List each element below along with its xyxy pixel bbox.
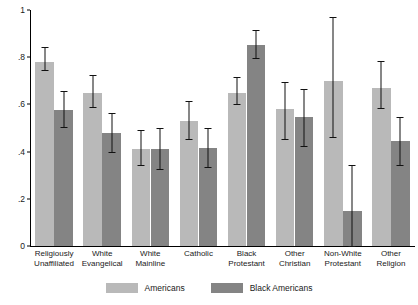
bar [180,121,199,246]
bar [228,93,247,246]
legend-swatch-icon [211,283,243,293]
bar [35,62,54,246]
error-bar-cap [253,58,260,59]
x-axis-line [30,246,415,247]
bar [247,45,266,246]
error-bar [256,30,257,58]
category-label-line: Mainline [118,259,182,269]
error-bar [400,117,401,164]
error-bar-cap [378,61,385,62]
error-bar-cap [60,127,67,128]
error-bar-cap [204,128,211,129]
error-bar-cap [301,146,308,147]
error-bar [159,128,160,169]
category-label-line: Other [359,249,418,259]
category-axis-labels: ReligiouslyUnaffiliatedWhiteEvangelicalW… [30,249,415,277]
bar [54,110,73,246]
error-bar [140,130,141,164]
plot-area: 1.8.6.4.20 [30,10,415,246]
bar [372,88,391,246]
error-bar-cap [204,167,211,168]
error-bar-cap [330,17,337,18]
error-bar-cap [282,139,289,140]
y-axis-tick-mark [27,10,30,11]
error-bar-cap [156,128,163,129]
error-bar-cap [108,113,115,114]
error-bar-cap [349,246,356,247]
legend-label: Americans [145,284,185,293]
bar-chart: 1.8.6.4.20 ReligiouslyUnaffiliatedWhiteE… [0,0,418,305]
error-bar [285,82,286,139]
error-bar [207,128,208,167]
error-bar [237,77,238,104]
error-bar-cap [108,152,115,153]
y-axis-tick-mark [27,104,30,105]
error-bar [92,75,93,107]
error-bar [111,113,112,152]
error-bar-cap [282,82,289,83]
error-bar-cap [137,130,144,131]
error-bar-cap [185,139,192,140]
error-bar-cap [234,104,241,105]
category-label: OtherReligion [359,249,418,268]
error-bar-cap [397,165,404,166]
error-bar-cap [41,70,48,71]
error-bar-cap [253,30,260,31]
y-axis-tick-mark [27,198,30,199]
error-bar-cap [89,107,96,108]
error-bar [188,101,189,139]
error-bar-cap [89,75,96,76]
error-bar-cap [156,169,163,170]
error-bar [63,91,64,126]
legend-entry[interactable]: Americans [106,283,185,293]
legend-entry[interactable]: Black Americans [211,283,313,293]
error-bar [44,47,45,71]
error-bar [304,89,305,146]
legend-swatch-icon [106,283,138,293]
error-bar-cap [330,137,337,138]
error-bar-cap [185,101,192,102]
y-axis-tick-mark [27,57,30,58]
error-bar-cap [234,77,241,78]
error-bar-cap [378,108,385,109]
error-bar-cap [301,89,308,90]
error-bar [333,17,334,137]
y-axis-tick-mark [27,151,30,152]
error-bar [352,165,353,246]
error-bar-cap [397,117,404,118]
legend-label: Black Americans [250,284,313,293]
y-axis-tick-mark [27,246,30,247]
category-label-line: Religion [359,259,418,269]
error-bar-cap [41,47,48,48]
error-bar [381,61,382,108]
error-bar-cap [349,165,356,166]
error-bar-cap [60,91,67,92]
bar [83,93,102,246]
chart-legend: AmericansBlack Americans [0,283,418,293]
error-bar-cap [137,165,144,166]
